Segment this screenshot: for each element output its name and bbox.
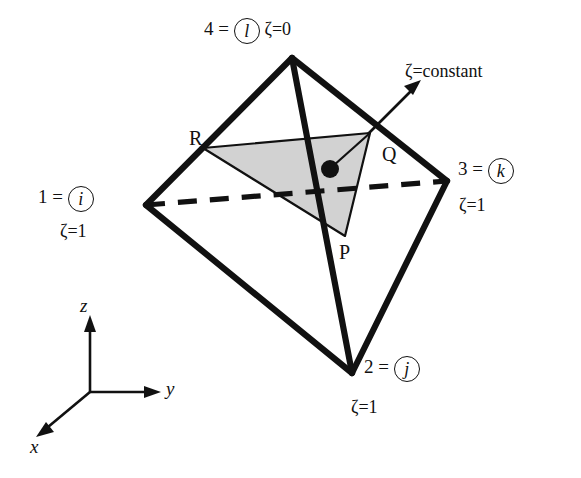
axis-z-arrow-head <box>84 315 96 332</box>
zeta-constant-arrow-head <box>404 80 421 95</box>
vertex-bottom-label: 2 = j <box>364 356 420 382</box>
axis-y-arrow-head <box>144 386 161 398</box>
vertex-top-number: 4 = <box>204 18 229 39</box>
vertex-top-circled-symbol: l <box>234 18 260 44</box>
section-corner-label-r: R <box>189 128 202 148</box>
axis-x-shaft <box>48 392 90 427</box>
edge-left-bottom <box>146 205 352 373</box>
axis-label-z: z <box>80 296 87 315</box>
tetrahedron-diagram <box>0 0 581 478</box>
zeta-constant-section-face <box>203 133 370 236</box>
vertex-bottom-circled-symbol: j <box>394 356 420 382</box>
vertex-right-number: 3 = <box>458 158 483 179</box>
section-corner-label-q: Q <box>382 144 396 164</box>
vertex-right-zeta: ζ=1 <box>459 196 486 214</box>
vertex-left-number: 1 = <box>38 186 63 207</box>
section-corner-label-p: P <box>339 242 350 262</box>
zeta-constant-annotation: ζ=constant <box>405 62 483 80</box>
vertex-left-label: 1 = i <box>38 186 94 212</box>
vertex-bottom-number: 2 = <box>364 356 389 377</box>
sample-point-dot <box>321 160 339 178</box>
vertex-top-label: 4 = l ζ=0 <box>204 18 291 44</box>
axis-label-y: y <box>166 379 174 398</box>
axis-label-x: x <box>30 437 38 456</box>
vertex-right-label: 3 = k <box>458 158 514 184</box>
zeta-constant-arrow-shaft <box>368 88 414 134</box>
vertex-left-zeta: ζ=1 <box>60 222 87 240</box>
vertex-left-circled-symbol: i <box>68 186 94 212</box>
edge-right-bottom <box>352 181 447 373</box>
vertex-right-circled-symbol: k <box>488 158 514 184</box>
vertex-bottom-zeta: ζ=1 <box>351 398 378 416</box>
vertex-top-zeta: ζ=0 <box>264 19 291 39</box>
